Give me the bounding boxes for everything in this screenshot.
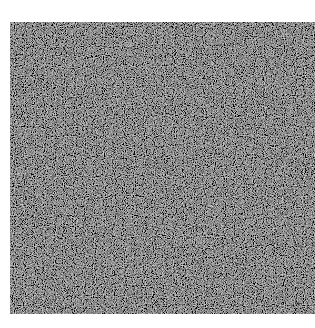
- noise-texture: [10, 22, 315, 314]
- noise-graphic: [10, 22, 315, 314]
